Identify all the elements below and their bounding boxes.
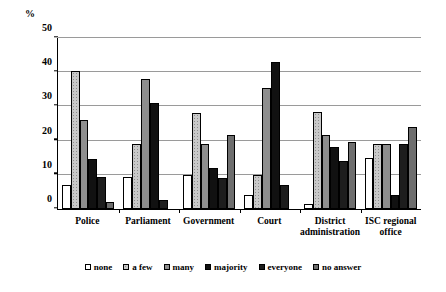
bars-wrapper [244,38,296,209]
x-axis-category-label: District administration [300,216,361,238]
bar [304,204,313,209]
legend-label: none [94,262,113,272]
bar [62,185,71,209]
bar-group [361,38,422,209]
bars-wrapper [304,38,356,209]
x-axis-tick-mark [119,209,120,213]
x-axis-tick-mark [240,209,241,213]
bar [150,103,159,209]
bar [192,113,201,209]
bars-wrapper [365,38,417,209]
bar-group [119,38,180,209]
bar [141,79,150,209]
y-axis-tick-label: 50 [42,22,52,33]
bar-group [58,38,119,209]
bar [365,158,374,209]
bar [330,147,339,209]
x-axis-category-label: ISC regional office [360,216,421,238]
x-axis-category-label: Court [239,216,300,238]
legend-swatch-icon [164,264,170,270]
legend-label: everyone [268,262,302,272]
bar [322,135,331,209]
bar [123,177,132,209]
bar [391,195,400,209]
legend-swatch-icon [85,264,91,270]
bar [244,195,253,209]
bar [280,185,289,209]
bar [399,144,408,209]
legend-label: a few [132,262,152,272]
x-axis-tick-mark [361,209,362,213]
legend-label: majority [214,262,248,272]
bar [313,112,322,209]
bars-wrapper [62,38,114,209]
bar [97,177,106,209]
bar-group [179,38,240,209]
plot-area: 01020304050 [57,38,421,210]
bar [183,175,192,209]
legend-item[interactable]: majority [205,262,248,272]
y-axis-tick-label: 20 [42,124,52,135]
bar [253,175,262,209]
x-axis-tick-mark [300,209,301,213]
bar [218,178,227,209]
bar [271,62,280,209]
legend-item[interactable]: none [85,262,113,272]
legend-item[interactable]: no answer [313,262,361,272]
bar [408,127,417,209]
bar [132,144,141,209]
legend-swatch-icon [313,264,319,270]
bar [71,71,80,210]
x-axis-category-labels: PoliceParliamentGovernmentCourtDistrict … [57,216,421,238]
bar [373,144,382,209]
legend-item[interactable]: many [164,262,195,272]
legend-swatch-icon [205,264,211,270]
bar [339,161,348,209]
bar-group [240,38,301,209]
bar [159,200,168,209]
bar [80,120,89,209]
y-axis-unit-label: % [25,8,35,19]
x-axis-category-label: Government [178,216,239,238]
bar [348,142,357,209]
bars-wrapper [183,38,235,209]
bar-group [300,38,361,209]
y-axis-tick-label: 40 [42,56,52,67]
bar [88,159,97,209]
bar [262,88,271,209]
legend-item[interactable]: everyone [259,262,302,272]
x-axis-category-label: Police [57,216,118,238]
bar-chart: % 01020304050 PoliceParliamentGovernment… [0,0,446,292]
legend-swatch-icon [259,264,265,270]
x-axis-tick-mark [179,209,180,213]
legend-swatch-icon [123,264,129,270]
legend-label: many [173,262,195,272]
y-axis-tick-label: 10 [42,158,52,169]
y-axis-tick-label: 30 [42,90,52,101]
bars-wrapper [123,38,175,209]
bar [106,202,115,209]
bar-groups [58,38,421,209]
bar [382,144,391,209]
bar [201,144,210,209]
bar [227,135,236,209]
legend-label: no answer [322,262,361,272]
legend-item[interactable]: a few [123,262,152,272]
bar [209,168,218,209]
x-axis-category-label: Parliament [118,216,179,238]
chart-legend: nonea fewmanymajorityeveryoneno answer [0,262,446,272]
y-axis-tick-label: 0 [47,193,52,204]
